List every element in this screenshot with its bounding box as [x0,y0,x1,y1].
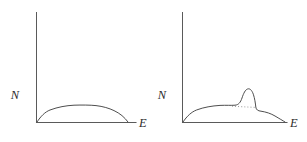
left-x-axis-label: E [138,116,147,130]
right-chart-svg: N E [153,0,307,142]
chart-panel-right: N E [153,0,307,142]
right-resonance-curve [183,89,285,122]
right-y-axis-label: N [157,88,167,102]
left-continuum-curve [37,105,128,122]
right-baseline-dotted-line [232,106,256,107]
left-y-axis-label: N [10,88,20,102]
chart-panel-left: N E [0,0,153,142]
left-chart-svg: N E [0,0,153,142]
right-x-axis-label: E [289,116,298,130]
figure-container: N E N E [0,0,307,142]
